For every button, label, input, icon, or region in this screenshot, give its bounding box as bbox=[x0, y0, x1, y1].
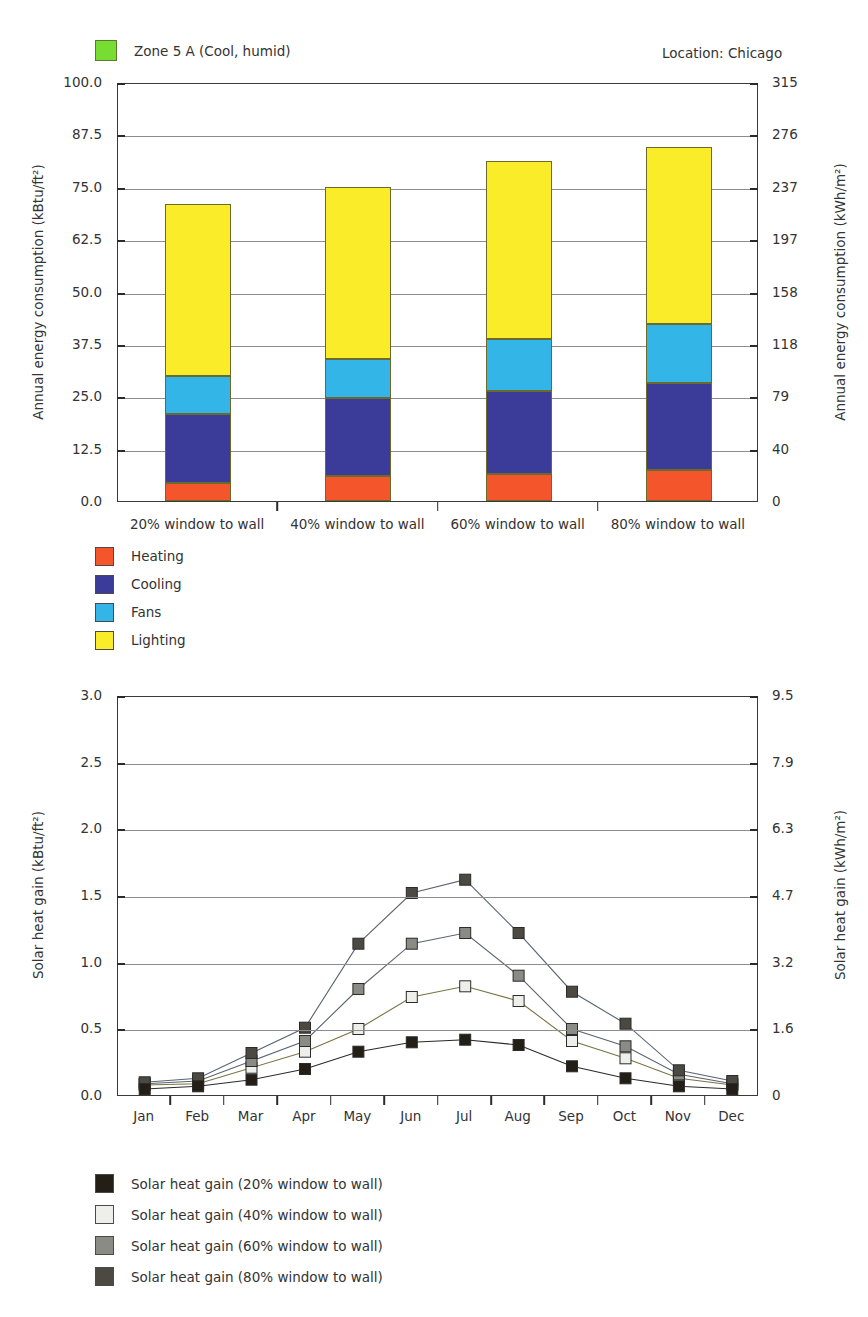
data-point-marker[interactable] bbox=[246, 1048, 257, 1059]
bar-segment-heating[interactable] bbox=[646, 470, 712, 501]
bottom-chart-month-label: Apr bbox=[292, 1108, 315, 1124]
top-chart-y-tick-label-left: 12.5 bbox=[40, 443, 102, 457]
data-point-marker[interactable] bbox=[300, 1064, 311, 1075]
top-chart-plot-area bbox=[117, 83, 758, 502]
data-point-marker[interactable] bbox=[300, 1022, 311, 1033]
data-point-marker[interactable] bbox=[353, 938, 364, 949]
bar-segment-heating[interactable] bbox=[165, 483, 231, 501]
bar-segment-cooling[interactable] bbox=[165, 414, 231, 484]
data-point-marker[interactable] bbox=[139, 1084, 150, 1095]
top-chart-y-tick-label-right: 315 bbox=[772, 76, 798, 90]
bar-segment-fans[interactable] bbox=[486, 339, 552, 391]
data-point-marker[interactable] bbox=[353, 984, 364, 995]
y-tick-mark bbox=[117, 345, 125, 347]
data-point-marker[interactable] bbox=[620, 1073, 631, 1084]
data-point-marker[interactable] bbox=[513, 928, 524, 939]
legend-label: Solar heat gain (40% window to wall) bbox=[131, 1207, 383, 1223]
data-point-marker[interactable] bbox=[513, 996, 524, 1007]
y-tick-mark bbox=[750, 293, 758, 295]
data-point-marker[interactable] bbox=[567, 1036, 578, 1047]
bar-segment-cooling[interactable] bbox=[325, 398, 391, 476]
bottom-chart-month-label: Nov bbox=[665, 1108, 691, 1124]
top-chart-y-tick-label-right: 0 bbox=[772, 495, 781, 509]
x-tick-mark bbox=[597, 502, 599, 511]
legend-item[interactable]: Cooling bbox=[95, 570, 186, 598]
data-point-marker[interactable] bbox=[246, 1074, 257, 1085]
stacked-bar[interactable] bbox=[646, 82, 712, 501]
top-chart-category-label: 40% window to wall bbox=[290, 516, 424, 532]
top-chart-y-tick-label-left: 100.0 bbox=[40, 76, 102, 90]
data-point-marker[interactable] bbox=[727, 1084, 738, 1095]
legend-item[interactable]: Solar heat gain (80% window to wall) bbox=[95, 1261, 383, 1292]
y-tick-mark bbox=[117, 188, 125, 190]
data-point-marker[interactable] bbox=[567, 1061, 578, 1072]
data-point-marker[interactable] bbox=[460, 981, 471, 992]
x-tick-mark bbox=[330, 1096, 332, 1105]
data-point-marker[interactable] bbox=[620, 1018, 631, 1029]
x-tick-mark bbox=[490, 1096, 492, 1105]
y-tick-mark bbox=[750, 397, 758, 399]
bar-segment-fans[interactable] bbox=[325, 359, 391, 398]
y-tick-mark bbox=[117, 1029, 125, 1031]
data-point-marker[interactable] bbox=[513, 970, 524, 981]
data-point-marker[interactable] bbox=[673, 1065, 684, 1076]
bar-segment-cooling[interactable] bbox=[646, 383, 712, 470]
y-tick-mark bbox=[750, 135, 758, 137]
bar-segment-lighting[interactable] bbox=[646, 147, 712, 324]
legend-item[interactable]: Solar heat gain (40% window to wall) bbox=[95, 1199, 383, 1230]
data-point-marker[interactable] bbox=[620, 1041, 631, 1052]
legend-label: Cooling bbox=[131, 576, 182, 592]
legend-color-swatch bbox=[95, 1174, 114, 1193]
bar-segment-lighting[interactable] bbox=[486, 161, 552, 339]
data-point-marker[interactable] bbox=[300, 1036, 311, 1047]
data-point-marker[interactable] bbox=[460, 1034, 471, 1045]
legend-item[interactable]: Heating bbox=[95, 542, 186, 570]
legend-item[interactable]: Lighting bbox=[95, 626, 186, 654]
data-point-marker[interactable] bbox=[353, 1046, 364, 1057]
y-tick-mark bbox=[117, 896, 125, 898]
data-point-marker[interactable] bbox=[300, 1046, 311, 1057]
data-point-marker[interactable] bbox=[567, 986, 578, 997]
data-point-marker[interactable] bbox=[353, 1024, 364, 1035]
data-point-marker[interactable] bbox=[513, 1040, 524, 1051]
data-point-marker[interactable] bbox=[406, 1037, 417, 1048]
top-chart-category-label: 80% window to wall bbox=[611, 516, 745, 532]
stacked-bar[interactable] bbox=[165, 82, 231, 501]
top-chart-category-label: 20% window to wall bbox=[130, 516, 264, 532]
bar-segment-heating[interactable] bbox=[325, 476, 391, 501]
bar-segment-lighting[interactable] bbox=[165, 204, 231, 376]
top-chart-y-tick-label-left: 75.0 bbox=[40, 181, 102, 195]
bottom-chart-y-tick-label-left: 1.0 bbox=[40, 956, 102, 970]
bar-segment-lighting[interactable] bbox=[325, 187, 391, 359]
data-point-marker[interactable] bbox=[673, 1081, 684, 1092]
top-chart-legend: HeatingCoolingFansLighting bbox=[95, 542, 186, 654]
legend-item[interactable]: Fans bbox=[95, 598, 186, 626]
stacked-bar[interactable] bbox=[325, 82, 391, 501]
data-point-marker[interactable] bbox=[567, 1024, 578, 1035]
bar-segment-heating[interactable] bbox=[486, 474, 552, 501]
gridline bbox=[118, 1030, 757, 1031]
gridline bbox=[118, 764, 757, 765]
data-point-marker[interactable] bbox=[406, 992, 417, 1003]
line-path bbox=[145, 933, 733, 1084]
data-point-marker[interactable] bbox=[460, 874, 471, 885]
bar-segment-cooling[interactable] bbox=[486, 391, 552, 474]
line-path bbox=[145, 880, 733, 1083]
data-point-marker[interactable] bbox=[193, 1081, 204, 1092]
bar-segment-fans[interactable] bbox=[646, 324, 712, 383]
stacked-bar[interactable] bbox=[486, 82, 552, 501]
gridline bbox=[118, 964, 757, 965]
legend-item[interactable]: Solar heat gain (20% window to wall) bbox=[95, 1168, 383, 1199]
y-tick-mark bbox=[750, 829, 758, 831]
top-chart-y-tick-label-right: 276 bbox=[772, 129, 798, 143]
data-point-marker[interactable] bbox=[620, 1053, 631, 1064]
top-chart-y-tick-label-left: 87.5 bbox=[40, 129, 102, 143]
y-tick-mark bbox=[117, 240, 125, 242]
x-tick-mark bbox=[223, 1096, 225, 1105]
data-point-marker[interactable] bbox=[406, 938, 417, 949]
bar-segment-fans[interactable] bbox=[165, 376, 231, 414]
legend-item[interactable]: Solar heat gain (60% window to wall) bbox=[95, 1230, 383, 1261]
bottom-chart-y-tick-label-right: 6.3 bbox=[772, 823, 793, 837]
bottom-chart-month-label: Jul bbox=[456, 1108, 472, 1124]
data-point-marker[interactable] bbox=[460, 928, 471, 939]
